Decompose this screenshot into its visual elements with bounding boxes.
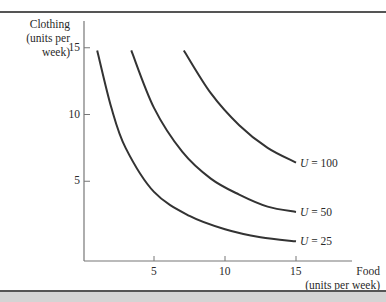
curves	[97, 50, 296, 241]
axis-ticks	[84, 48, 296, 261]
y-tick-label: 10	[69, 108, 81, 120]
indifference-curves-plot	[0, 0, 386, 302]
curve-label: U = 25	[300, 235, 332, 247]
x-axis-label-line-1: Food	[305, 264, 380, 278]
curve-label: U = 50	[300, 206, 332, 218]
indifference-curve	[184, 50, 296, 162]
x-axis-label: Food (units per week)	[305, 264, 380, 292]
y-tick-label: 15	[69, 41, 81, 53]
bottom-band	[0, 292, 386, 302]
indifference-curve	[131, 50, 296, 212]
x-tick-label: 15	[290, 265, 302, 277]
y-tick-label: 5	[74, 174, 80, 186]
x-tick-label: 10	[219, 265, 231, 277]
curve-label: U = 100	[300, 157, 338, 169]
x-tick-label: 5	[151, 265, 157, 277]
